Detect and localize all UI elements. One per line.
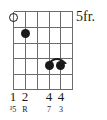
finger-number-string-2: 2: [19, 90, 31, 104]
chord-diagram: 5fr. 1 2 4 4 ³5 R 7 3: [0, 0, 107, 120]
interval-label-string-5: 3: [55, 104, 67, 116]
finger-dot[interactable]: [45, 61, 54, 70]
fret-position-label: 5fr.: [76, 9, 95, 24]
open-string-marker[interactable]: [9, 13, 18, 22]
interval-label-row: ³5 R 7 3: [13, 104, 73, 118]
finger-number-string-4: 4: [43, 90, 55, 104]
interval-label-string-4: 7: [43, 104, 55, 116]
interval-label-string-1: ³5: [7, 104, 19, 116]
finger-number-string-5: 4: [55, 90, 67, 104]
fretboard-grid-lines: [13, 11, 73, 90]
finger-dot[interactable]: [56, 61, 65, 70]
interval-label-string-2: R: [19, 104, 31, 116]
fretboard-grid: [13, 11, 73, 90]
finger-number-string-1: 1: [7, 90, 19, 104]
finger-number-row: 1 2 4 4: [13, 90, 73, 104]
finger-dot[interactable]: [21, 29, 30, 38]
